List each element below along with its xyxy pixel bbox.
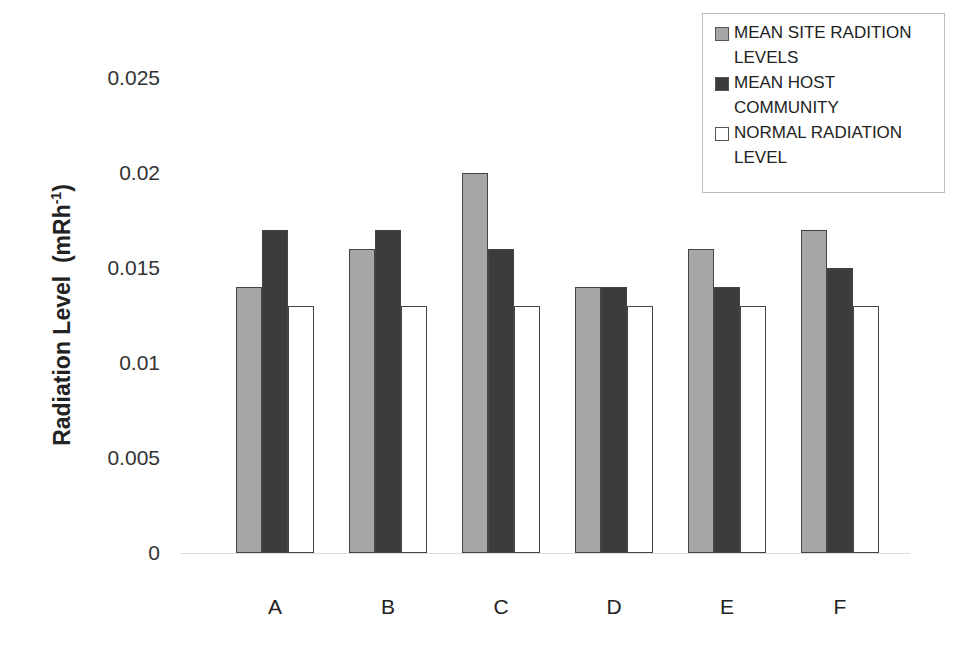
legend-label: LEVELS: [734, 48, 798, 67]
bar-e-series-0: [688, 249, 714, 553]
legend-label: MEAN SITE RADITION: [734, 23, 912, 42]
bar-c-series-0: [462, 173, 488, 553]
legend-item-normal: NORMAL RADIATIONLEVEL: [709, 120, 938, 170]
bar-f-series-1: [827, 268, 853, 553]
bar-c-series-1: [488, 249, 514, 553]
legend-label: LEVEL: [734, 148, 787, 167]
legend-swatch-icon: [715, 77, 729, 91]
bar-a-series-1: [262, 230, 288, 553]
legend-swatch-icon: [715, 27, 729, 41]
y-tick-label: 0.015: [107, 256, 160, 280]
legend: MEAN SITE RADITIONLEVELS MEAN HOSTCOMMUN…: [702, 13, 945, 193]
x-tick-label: F: [834, 595, 847, 619]
y-tick-label: 0.01: [119, 351, 160, 375]
legend-swatch-icon: [715, 127, 729, 141]
bar-f-series-0: [801, 230, 827, 553]
x-axis-line: [180, 553, 910, 554]
y-axis-label: Radiation Level (mRh-1): [48, 184, 76, 446]
y-tick-label: 0.025: [107, 66, 160, 90]
bar-b-series-0: [349, 249, 375, 553]
legend-label: COMMUNITY: [734, 98, 839, 117]
y-tick-label: 0.02: [119, 161, 160, 185]
bar-e-series-1: [714, 287, 740, 553]
legend-item-mean-host: MEAN HOSTCOMMUNITY: [709, 70, 938, 120]
bar-c-series-2: [514, 306, 540, 553]
x-tick-label: B: [381, 595, 395, 619]
legend-label: MEAN HOST: [734, 73, 835, 92]
legend-label: NORMAL RADIATION: [734, 123, 902, 142]
bar-d-series-1: [601, 287, 627, 553]
bar-b-series-1: [375, 230, 401, 553]
bar-a-series-0: [236, 287, 262, 553]
bar-d-series-0: [575, 287, 601, 553]
x-tick-label: A: [268, 595, 282, 619]
x-tick-label: E: [720, 595, 734, 619]
bar-e-series-2: [740, 306, 766, 553]
x-tick-label: D: [606, 595, 621, 619]
bar-f-series-2: [853, 306, 879, 553]
legend-item-mean-site: MEAN SITE RADITIONLEVELS: [709, 20, 938, 70]
bar-a-series-2: [288, 306, 314, 553]
y-tick-label: 0: [148, 541, 160, 565]
bar-b-series-2: [401, 306, 427, 553]
y-tick-label: 0.005: [107, 446, 160, 470]
x-tick-label: C: [493, 595, 508, 619]
bar-d-series-2: [627, 306, 653, 553]
